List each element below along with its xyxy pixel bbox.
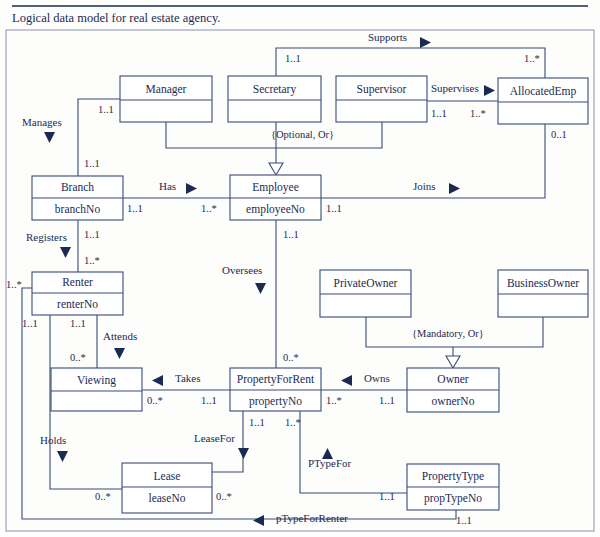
relationship-takes[interactable]: Takes (152, 372, 201, 386)
entity-name: PropertyForRent (237, 373, 315, 386)
direction-triangle (114, 348, 125, 359)
direction-triangle (420, 37, 431, 48)
multiplicity-m-ptyperenter-renter: 1..* (6, 279, 22, 290)
relationship-registers[interactable]: Registers (26, 231, 71, 258)
relationship-joins[interactable]: Joins (413, 180, 460, 194)
entity-owner[interactable]: OwnerownerNo (407, 368, 499, 412)
multiplicity-m-holds-renter: 1..1 (22, 318, 38, 329)
entity-attribute: leaseNo (148, 492, 185, 504)
direction-triangle (186, 183, 197, 194)
relationship-supports[interactable]: Supports (368, 31, 431, 48)
entity-attribute: propertyNo (249, 395, 302, 408)
relationship-label: Has (159, 180, 176, 192)
direction-triangle (449, 183, 460, 194)
multiplicity-m-attends-renter: 1..1 (70, 318, 86, 329)
entity-manager[interactable]: Manager (120, 76, 212, 122)
entity-name: Renter (62, 276, 93, 288)
multiplicity-m-supervises-alloc: 1..* (470, 108, 486, 119)
multiplicity-m-holds-lease: 0..* (95, 491, 111, 502)
relationship-leasefor[interactable]: LeaseFor (194, 432, 249, 459)
direction-triangle (255, 283, 266, 294)
entity-attribute: ownerNo (432, 395, 475, 407)
entity-propertytype[interactable]: PropertyTypepropTypeNo (407, 464, 499, 510)
entity-name: AllocatedEmp (510, 85, 577, 98)
multiplicity-m-supervises-sup: 1..1 (431, 108, 447, 119)
multiplicity-m-owns-owner: 1..1 (379, 395, 395, 406)
entity-name: Supervisor (357, 83, 407, 96)
multiplicity-m-takes-pfr: 1..1 (201, 395, 217, 406)
relationship-supervises[interactable]: Supervises (431, 82, 495, 96)
entity-branch[interactable]: BranchbranchNo (32, 176, 123, 220)
multiplicity-m-supports-alloc: 1..* (524, 53, 540, 64)
relationship-label: Holds (40, 434, 66, 446)
entity-attribute: renterNo (57, 298, 98, 310)
constraint-mandatory-or: {Mandatory, Or} (412, 328, 484, 339)
entity-name: PrivateOwner (334, 277, 398, 289)
entity-name: Branch (61, 181, 94, 193)
entity-attribute: propTypeNo (424, 492, 482, 505)
relationship-label: Takes (175, 372, 201, 384)
relationship-attends[interactable]: Attends (103, 330, 137, 359)
entity-propertyforrent[interactable]: PropertyForRentpropertyNo (230, 368, 321, 411)
entity-renter[interactable]: RenterrenterNo (32, 272, 123, 315)
relationship-label: Attends (103, 330, 137, 342)
gen-triangle-owner (446, 356, 460, 368)
entity-name: Lease (154, 470, 181, 482)
constraint-optional-or: {Optional, Or} (271, 129, 334, 140)
multiplicity-m-supports-sec: 1..1 (285, 53, 301, 64)
multiplicity-m-ptypefor-ptype: 1..1 (379, 491, 395, 502)
direction-triangle (238, 448, 249, 459)
direction-triangle (253, 515, 264, 526)
entity-secretary[interactable]: Secretary (228, 76, 321, 122)
diagram-page: Logical data model for real estate agenc… (0, 0, 600, 537)
relationship-label: Joins (413, 180, 436, 192)
multiplicity-m-oversees-emp: 1..1 (283, 229, 299, 240)
entity-lease[interactable]: LeaseleaseNo (122, 463, 212, 513)
entity-attribute: employeeNo (246, 203, 305, 216)
relationship-ptypefor[interactable]: PTypeFor (308, 448, 352, 469)
gen-triangle-employee (269, 163, 283, 175)
entity-viewing[interactable]: Viewing (51, 368, 142, 411)
entity-privateowner[interactable]: PrivateOwner (320, 270, 411, 317)
relationship-label: Registers (26, 231, 67, 243)
relationship-label: Oversees (222, 264, 262, 276)
multiplicity-m-owns-pfr: 1..* (326, 395, 342, 406)
multiplicity-m-leasefor-lease: 0..* (216, 491, 232, 502)
entity-name: Employee (252, 181, 299, 194)
direction-triangle (152, 375, 163, 386)
er-diagram: Logical data model for real estate agenc… (0, 0, 600, 537)
multiplicity-m-ptypefor-pfr: 1..* (285, 417, 301, 428)
entity-name: BusinessOwner (507, 277, 579, 289)
multiplicity-m-attends-viewing: 0..* (70, 352, 86, 363)
relationship-oversees[interactable]: Oversees (222, 264, 266, 294)
multiplicity-m-registers-renter: 1..* (84, 255, 100, 266)
entities-layer: ManagerSecretarySupervisorAllocatedEmpBr… (32, 76, 588, 513)
entity-businessowner[interactable]: BusinessOwner (498, 270, 588, 317)
multiplicity-m-manages-branch: 1..1 (84, 158, 100, 169)
relationship-owns[interactable]: Owns (341, 372, 390, 386)
direction-triangle (60, 247, 71, 258)
multiplicity-m-takes-viewing: 0..* (147, 395, 163, 406)
relationship-holds[interactable]: Holds (40, 434, 68, 462)
relationship-manages[interactable]: Manages (22, 116, 62, 143)
entity-allocatedemp[interactable]: AllocatedEmp (498, 78, 588, 124)
entity-employee[interactable]: EmployeeemployeeNo (230, 175, 321, 220)
relationship-label: Supervises (431, 82, 479, 94)
multiplicity-m-ptyperenter-ptype: 1..1 (456, 515, 472, 526)
relationship-label: Supports (368, 31, 407, 43)
direction-triangle (322, 448, 333, 459)
direction-triangle (341, 375, 352, 386)
relationship-label: Owns (364, 372, 390, 384)
multiplicity-m-has-branch: 1..1 (127, 203, 143, 214)
entity-name: PropertyType (422, 470, 484, 483)
multiplicity-m-joins-alloc: 0..1 (551, 129, 567, 140)
direction-triangle (484, 85, 495, 96)
multiplicity-m-manages-mgr: 1..1 (98, 104, 114, 115)
direction-triangle (57, 451, 68, 462)
entity-supervisor[interactable]: Supervisor (336, 76, 427, 122)
entity-name: Owner (437, 373, 468, 385)
entity-name: Secretary (253, 83, 297, 96)
relationship-label: pTypeForRenter (276, 512, 348, 524)
relationship-has[interactable]: Has (159, 180, 197, 194)
multiplicity-m-oversees-pfr: 0..* (283, 352, 299, 363)
